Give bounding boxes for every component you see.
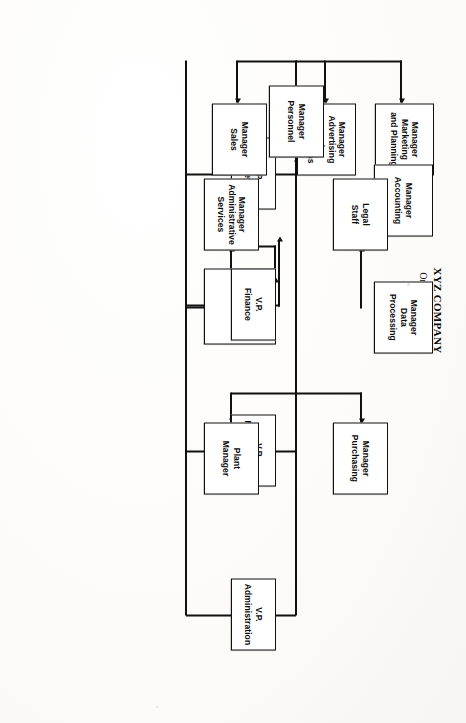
node-mgr-accounting-label: Manager Accounting [393, 176, 414, 224]
connector-purchasing-to-legal [360, 250, 362, 308]
connector-marketing-to-advertising [324, 60, 326, 102]
node-mgr-marketing-planning-label: Manager Marketing and Planning [389, 112, 420, 167]
connector-president-bus-right [185, 306, 187, 615]
connector-vp-manufacturing-stem [276, 450, 296, 452]
scan-speck [156, 706, 158, 708]
node-mgr-personnel-label: Manager Personnel [286, 100, 307, 142]
node-mgr-sales[interactable]: Manager Sales [212, 103, 267, 175]
node-mgr-data-processing[interactable]: Manager Data Processing [374, 281, 433, 353]
node-mgr-administrative-services-label: Manager Administrative Services [216, 184, 247, 244]
connector-manufacturing-bus-lower [231, 392, 297, 394]
connector-vp-administration-stem [276, 614, 296, 616]
node-vp-finance[interactable]: V.P. Finance [231, 268, 276, 340]
node-mgr-purchasing-label: Manager Purchasing [350, 434, 371, 481]
node-mgr-data-processing-label: Manager Data Processing [388, 294, 419, 341]
connector-president-stem [186, 306, 204, 308]
node-vp-administration-label: V.P. Administration [243, 583, 264, 644]
arrow-to-mgr-marketing-planning [399, 98, 405, 103]
connector-finance-to-accounting [278, 240, 280, 306]
arrow-to-mgr-accounting [277, 236, 283, 241]
scan-speck [407, 283, 410, 286]
connector-manufacturing-to-purchasing [360, 392, 362, 422]
node-mgr-administrative-services[interactable]: Manager Administrative Services [204, 178, 259, 250]
node-plant-manager[interactable]: Plant Manager [204, 422, 259, 494]
connector-riser-vp-administration [186, 614, 232, 616]
node-plant-manager-label: Plant Manager [221, 440, 242, 476]
company-title: XYZ COMPANY [432, 185, 444, 435]
node-mgr-purchasing[interactable]: Manager Purchasing [333, 422, 388, 494]
connector-president-bus [185, 60, 187, 307]
node-legal-staff-label: Legal Staff [350, 203, 371, 226]
connector-marketing-to-sales [236, 60, 238, 102]
node-mgr-sales-label: Manager Sales [229, 121, 250, 157]
connector-marketing-bus-vertical [296, 60, 402, 62]
connector-manufacturing-bus-vertical [296, 392, 362, 394]
connector-vp-marketing-stem [276, 173, 296, 175]
arrow-to-mgr-sales [235, 98, 241, 103]
connector-admin-to-personnel [295, 160, 297, 615]
node-legal-staff[interactable]: Legal Staff [333, 178, 388, 250]
connector-marketing-bus-lower [237, 60, 297, 62]
scan-speck [436, 300, 438, 302]
connector-marketing-to-planning [400, 60, 402, 102]
organization-chart: XYZ COMPANY Organization Chart 19XX [0, 0, 466, 723]
node-vp-administration[interactable]: V.P. Administration [231, 578, 276, 650]
node-vp-finance-label: V.P. Finance [243, 288, 264, 321]
node-mgr-personnel[interactable]: Manager Personnel [269, 85, 324, 157]
